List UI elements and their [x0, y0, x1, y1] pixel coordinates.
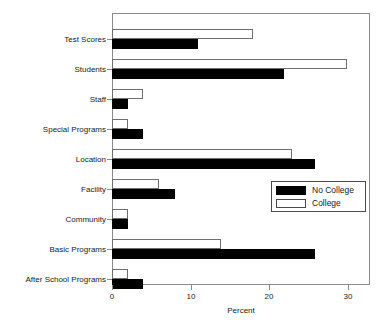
y-axis-label-after-school-programs: After School Programs	[0, 275, 106, 284]
bar-no-college-basic-programs	[112, 249, 315, 259]
legend-label-college: College	[312, 199, 341, 208]
bar-no-college-staff	[112, 99, 128, 109]
legend-swatch-no-college-icon	[276, 186, 306, 195]
x-axis-tick-0	[112, 285, 113, 290]
bar-no-college-test-scores	[112, 39, 198, 49]
y-axis-label-test-scores: Test Scores	[0, 35, 106, 44]
x-axis-tick-10	[191, 285, 192, 290]
bar-college-test-chart	[112, 29, 253, 39]
bar-college-after-school-programs	[112, 269, 128, 279]
legend-swatch-college-icon	[276, 199, 306, 208]
x-axis-tick-20	[269, 285, 270, 290]
y-axis-label-students: Students	[0, 65, 106, 74]
x-axis-tick-label-0: 0	[100, 292, 124, 301]
x-axis-tick-label-10: 10	[179, 292, 203, 301]
x-axis-tick-label-30: 30	[336, 292, 360, 301]
y-axis-label-community: Community	[0, 215, 106, 224]
y-axis-label-special-programs: Special Programs	[0, 125, 106, 134]
y-axis-label-facility: Facility	[0, 185, 106, 194]
bar-college-basic-programs	[112, 239, 221, 249]
x-axis-title: Percent	[112, 306, 370, 316]
legend-entry-no-college: No College	[276, 185, 354, 196]
bar-college-location	[112, 149, 292, 159]
bar-college-special-programs	[112, 119, 128, 129]
x-axis-tick-30	[348, 285, 349, 290]
bar-college-community	[112, 209, 128, 219]
bar-no-college-community	[112, 219, 128, 229]
bar-chart: Test Scores Students Staff Special Progr…	[0, 0, 384, 328]
bar-no-college-students	[112, 69, 284, 79]
legend-label-no-college: No College	[312, 186, 354, 195]
bar-no-college-location	[112, 159, 315, 169]
x-axis-tick-label-20: 20	[257, 292, 281, 301]
bar-college-staff	[112, 89, 143, 99]
y-axis-category-labels: Test Scores Students Staff Special Progr…	[0, 13, 106, 285]
x-axis-ticks: 0 10 20 30	[112, 285, 370, 305]
bar-college-students	[112, 59, 347, 69]
y-axis-label-location: Location	[0, 155, 106, 164]
legend-entry-college: College	[276, 198, 341, 209]
y-axis-label-basic-programs: Basic Programs	[0, 245, 106, 254]
y-axis-label-staff: Staff	[0, 95, 106, 104]
bar-no-college-special-programs	[112, 129, 143, 139]
bar-college-facility	[112, 179, 159, 189]
bar-no-college-facility	[112, 189, 175, 199]
chart-legend: No College College	[271, 181, 366, 212]
bars-layer	[112, 13, 370, 285]
